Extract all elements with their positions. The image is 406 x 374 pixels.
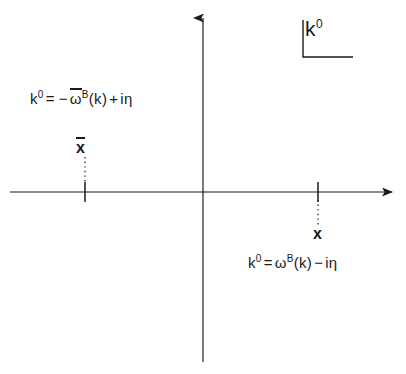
pole-equation-lower-right: k0=ωB(k)−iη: [248, 254, 337, 270]
pole-marker-right-symbol: x: [313, 225, 322, 242]
equation-tail: iη: [120, 90, 132, 107]
plane-label: k0: [305, 18, 323, 39]
equation-argument: (k): [89, 90, 107, 107]
plane-label-superscript: 0: [316, 17, 323, 31]
equation-omega: ω: [275, 254, 287, 271]
equation-lhs-superscript: 0: [256, 253, 262, 264]
equation-omega: ω: [70, 90, 82, 107]
pole-marker-left-symbol: x: [76, 139, 85, 156]
equation-lhs-base: k: [30, 90, 38, 107]
equation-tail: iη: [325, 254, 337, 271]
equation-lhs-base: k: [248, 254, 256, 271]
equation-equals: =: [262, 254, 275, 271]
equation-argument: (k): [294, 254, 312, 271]
equation-sign: −: [57, 90, 70, 107]
pole-marker-left-overline: [76, 137, 85, 139]
pole-equation-upper-left: k0=−ωB(k)+iη: [30, 90, 133, 106]
equation-tail-operator: +: [107, 90, 120, 107]
axes-and-markers-svg: [0, 0, 406, 374]
pole-marker-right: x: [313, 226, 322, 242]
omega-overline: [70, 88, 81, 90]
equation-omega-superscript: B: [287, 253, 294, 264]
equation-equals: =: [44, 90, 57, 107]
equation-tail-operator: −: [312, 254, 325, 271]
equation-omega-superscript: B: [82, 89, 89, 100]
equation-omega-barred: ω: [70, 91, 82, 106]
complex-plane-figure: k0 k0=−ωB(k)+iη k0=ωB(k)−iη x x: [0, 0, 406, 374]
equation-lhs-superscript: 0: [38, 89, 44, 100]
plane-label-base: k: [305, 17, 316, 40]
pole-marker-left: x: [76, 140, 85, 156]
